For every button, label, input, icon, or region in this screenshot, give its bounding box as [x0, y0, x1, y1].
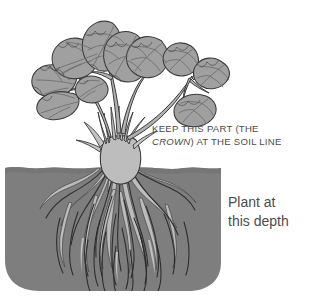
crown-keyword: CROWN [152, 136, 191, 147]
depth-annotation-line-2: this depth [228, 212, 289, 231]
crown-annotation-line-2: CROWN) AT THE SOIL LINE [152, 135, 282, 148]
depth-annotation: Plant at this depth [228, 193, 289, 230]
depth-annotation-line-1: Plant at [228, 193, 289, 212]
planting-depth-illustration: KEEP THIS PART (THE CROWN) AT THE SOIL L… [0, 0, 311, 307]
plant-diagram-svg [0, 0, 311, 307]
crown-annotation: KEEP THIS PART (THE CROWN) AT THE SOIL L… [152, 122, 282, 148]
leaf-canopy [32, 21, 230, 127]
crown-annotation-line-1: KEEP THIS PART (THE [152, 122, 282, 135]
crown-annotation-line-2-rest: ) AT THE SOIL LINE [191, 136, 282, 147]
